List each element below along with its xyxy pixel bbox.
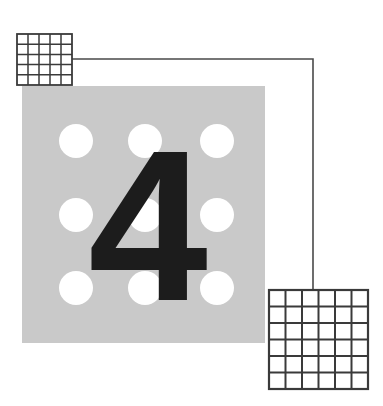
figure-canvas: 4	[0, 0, 383, 406]
plate-digit-label: 4	[88, 105, 208, 346]
grid-top-left	[17, 34, 72, 85]
figure-illustration: 4	[0, 0, 383, 406]
grid-bottom-right	[269, 290, 368, 389]
grid-top-left-background	[17, 34, 72, 85]
